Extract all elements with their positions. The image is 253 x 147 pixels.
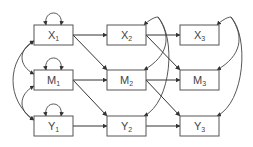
node-x1: X1 (34, 25, 73, 45)
node-m3: M3 (180, 70, 219, 90)
path-x1-m2 (73, 35, 107, 70)
residual-covariance-x2 (144, 17, 158, 25)
variance-loop-y1 (46, 104, 62, 116)
node-x2: X2 (107, 25, 146, 45)
node-m1: M1 (34, 70, 73, 90)
node-y3: Y3 (180, 116, 219, 136)
node-y2: Y2 (107, 116, 146, 136)
path-diagram: X1X2X3M1M2M3Y1Y2Y3 (0, 0, 253, 147)
node-m2: M2 (107, 70, 146, 90)
variance-loop-x1 (46, 13, 62, 25)
residual-covariance-x3 (217, 17, 231, 25)
node-y1: Y1 (34, 116, 73, 136)
covariance-x1-y1 (13, 41, 34, 120)
path-m1-y2 (73, 80, 107, 116)
node-x3: X3 (180, 25, 219, 45)
variance-loop-m1 (46, 58, 62, 70)
nodes-layer: X1X2X3M1M2M3Y1Y2Y3 (34, 25, 219, 136)
